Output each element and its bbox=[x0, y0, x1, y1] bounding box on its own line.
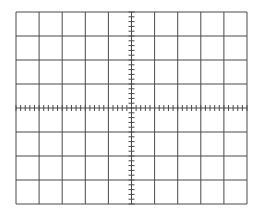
oscilloscope-graticule bbox=[0, 0, 261, 212]
graticule-grid bbox=[0, 0, 261, 212]
